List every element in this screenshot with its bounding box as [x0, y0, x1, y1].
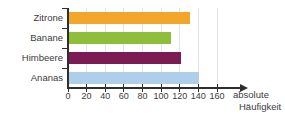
bar-zitrone — [69, 12, 190, 24]
category-label-himbeere: Himbeere — [0, 51, 63, 64]
x-axis-arrowhead — [240, 84, 248, 92]
bar-ananas — [69, 72, 199, 84]
x-axis-title-line-1: absolute — [233, 89, 269, 101]
gridline — [217, 8, 218, 88]
frequency-bar-chart: absolute Häufigkeit 02040608010012014016… — [0, 0, 285, 121]
bar-banane — [69, 32, 171, 44]
y-tick — [62, 68, 68, 69]
category-label-ananas: Ananas — [0, 71, 63, 84]
x-tick-label: 160 — [202, 91, 232, 102]
y-tick — [62, 28, 68, 29]
y-tick — [62, 8, 68, 9]
category-label-banane: Banane — [0, 31, 63, 44]
bar-himbeere — [69, 52, 181, 64]
category-label-zitrone: Zitrone — [0, 11, 63, 24]
x-axis-title-line-2: Häufigkeit — [239, 101, 281, 113]
y-tick — [62, 48, 68, 49]
